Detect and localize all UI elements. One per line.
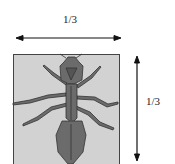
width-arrow <box>16 36 121 41</box>
height-arrow <box>135 56 140 161</box>
ant-square-diagram <box>0 0 175 164</box>
